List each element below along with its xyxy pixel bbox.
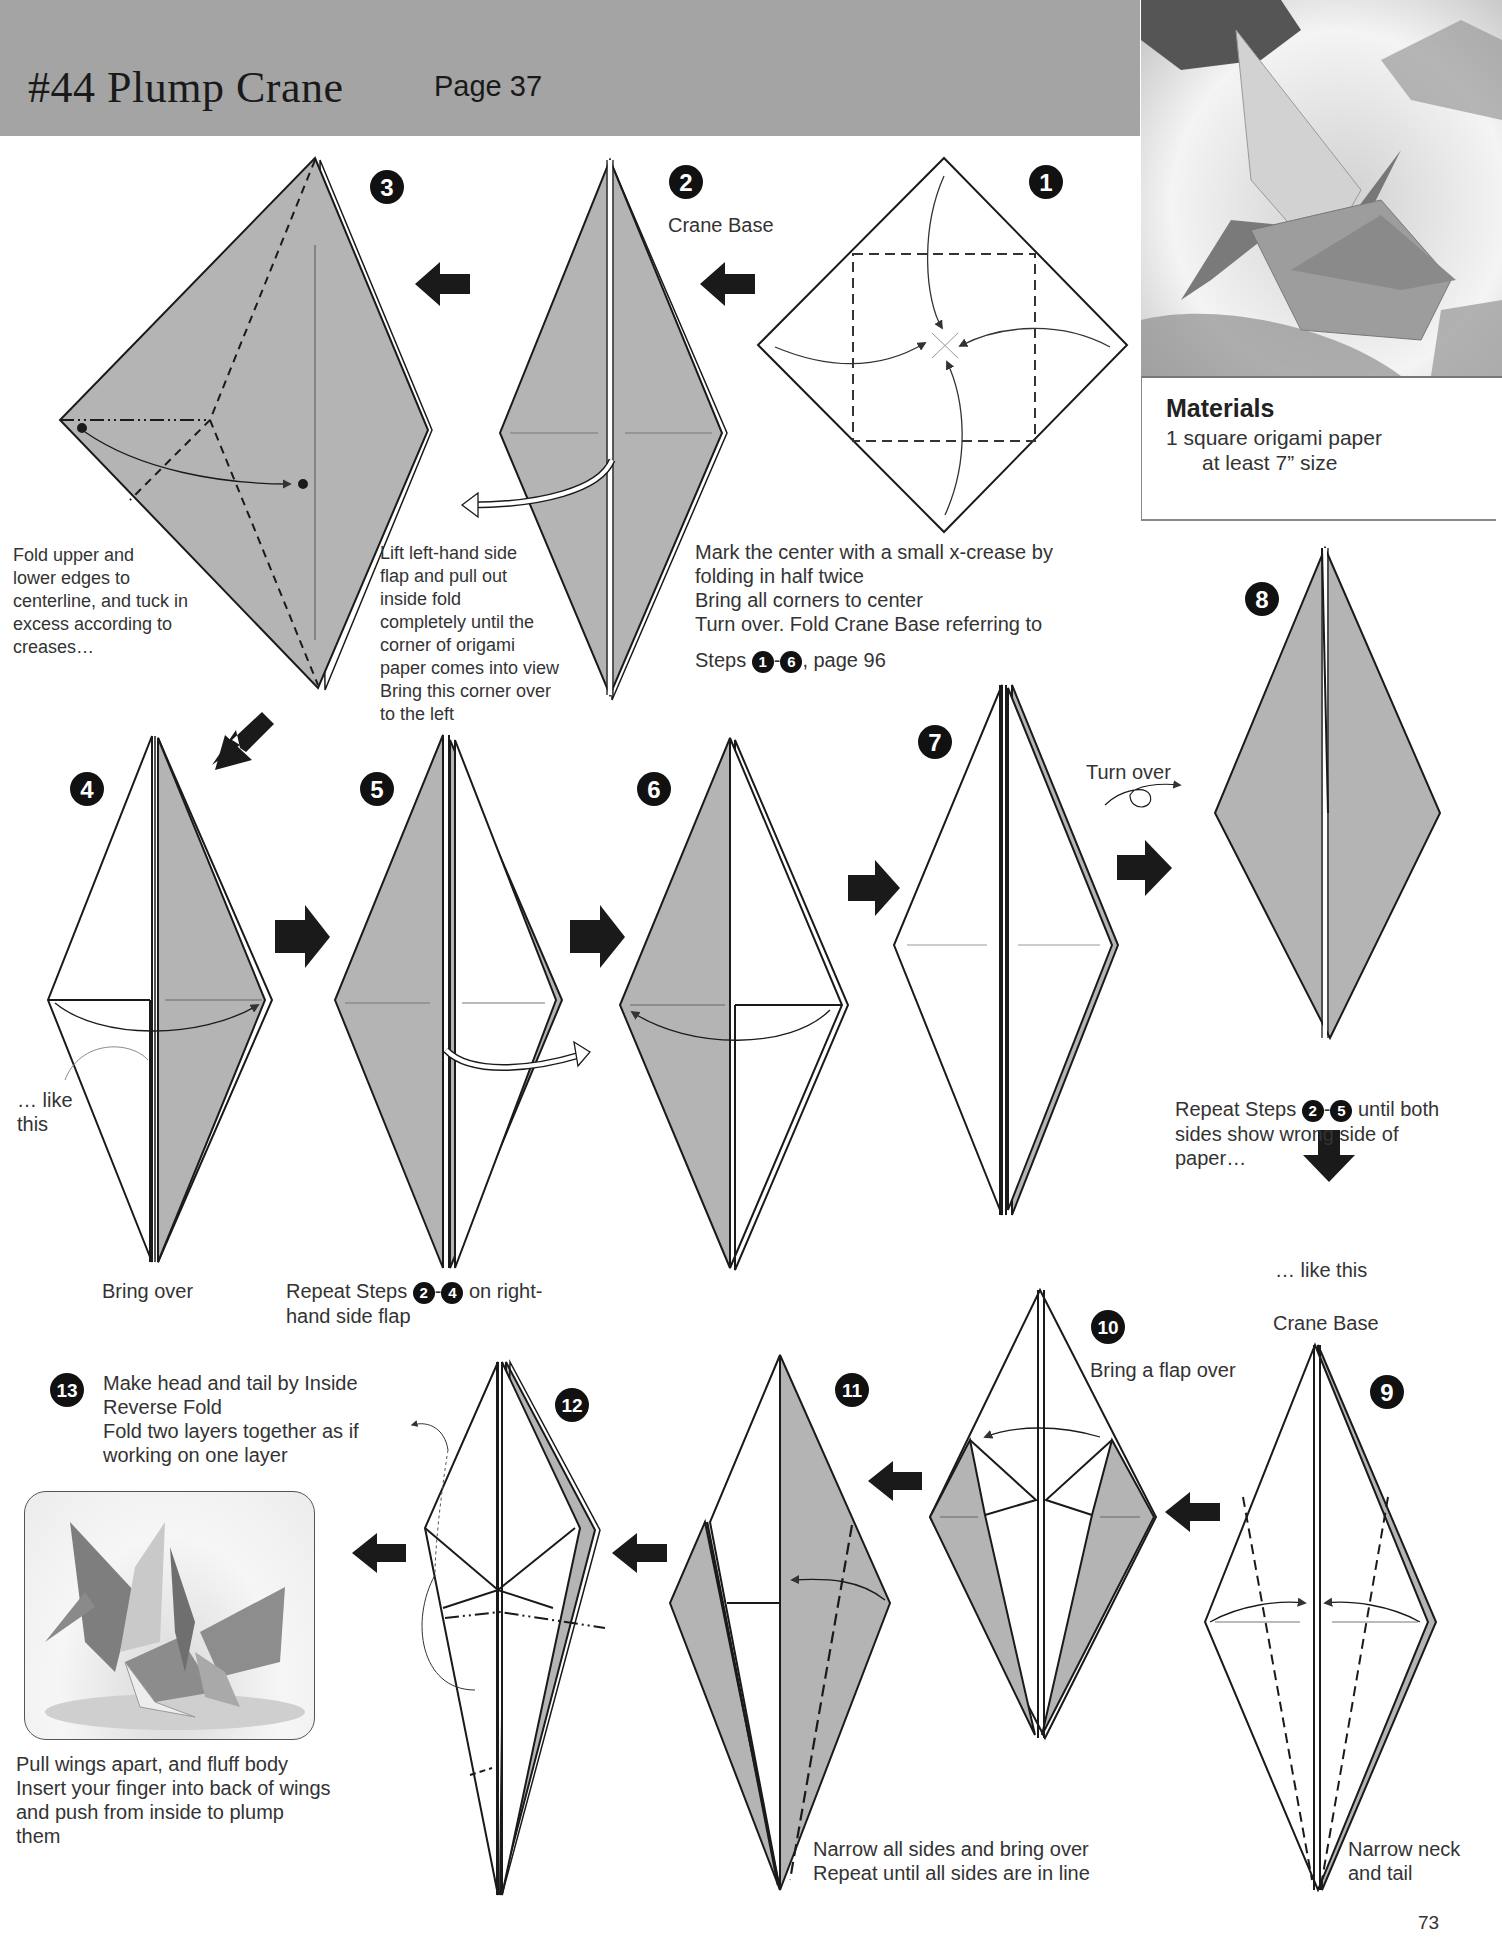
finished-crane-illustration <box>25 1492 314 1739</box>
step-ref-icon: 2 <box>413 1282 435 1304</box>
step9-diagram <box>1205 1345 1436 1890</box>
step-number-12: 12 <box>555 1388 589 1422</box>
step-number-10: 10 <box>1091 1310 1125 1344</box>
step-ref-icon: 4 <box>441 1282 463 1304</box>
step-number-1: 1 <box>1029 165 1063 199</box>
step-ref-icon: 1 <box>752 651 774 673</box>
step12-diagram <box>412 1362 605 1895</box>
step10-instructions: Bring a flap over <box>1090 1358 1236 1382</box>
step2-instructions: Lift left-hand side flap and pull out in… <box>380 542 559 726</box>
step-ref-icon: 2 <box>1302 1100 1324 1122</box>
step-number-9: 9 <box>1370 1375 1404 1409</box>
page-number: 73 <box>1418 1912 1439 1934</box>
turn-over-label: Turn over <box>1086 760 1171 784</box>
step4-note: … like this <box>17 1088 73 1136</box>
step-number-2: 2 <box>669 165 703 199</box>
step5-caption: Repeat Steps 2-4 on right- hand side fla… <box>286 1279 542 1328</box>
crane-base-label: Crane Base <box>1273 1311 1379 1335</box>
step5-prefix: Repeat Steps <box>286 1280 413 1302</box>
step5-diagram <box>335 735 590 1268</box>
step2-label: Crane Base <box>668 213 774 237</box>
dash: - <box>435 1280 442 1302</box>
step1-reference: Steps 1-6, page 96 <box>695 648 886 673</box>
step-ref-icon: 5 <box>1330 1100 1352 1122</box>
step-number-8: 8 <box>1245 582 1279 616</box>
step11-diagram <box>670 1355 890 1890</box>
step3-instructions: Fold upper and lower edges to centerline… <box>13 544 188 659</box>
finished-crane-photo <box>24 1491 315 1740</box>
step1-ref-prefix: Steps <box>695 649 752 671</box>
final-instructions: Pull wings apart, and fluff body Insert … <box>16 1752 331 1848</box>
step4-caption: Bring over <box>102 1279 193 1303</box>
step1-ref-suffix: , page 96 <box>802 649 885 671</box>
step-number-4: 4 <box>70 772 104 806</box>
step8-prefix: Repeat Steps <box>1175 1098 1302 1120</box>
step4-diagram <box>48 736 272 1262</box>
step6-diagram <box>620 738 848 1270</box>
dash: - <box>774 649 781 671</box>
step1-instructions: Mark the center with a small x-crease by… <box>695 540 1053 636</box>
step1-diagram <box>758 158 1127 532</box>
step9-instructions: Narrow neck and tail <box>1348 1837 1460 1885</box>
step-number-7: 7 <box>918 725 952 759</box>
like-this-label: … like this <box>1275 1258 1367 1282</box>
step13-instructions: Make head and tail by Inside Reverse Fol… <box>103 1371 359 1467</box>
arrow-left-3 <box>415 262 470 306</box>
step-ref-icon: 6 <box>780 651 802 673</box>
step-number-11: 11 <box>835 1373 869 1407</box>
dash: - <box>1324 1098 1331 1120</box>
step8-instructions: Repeat Steps 2-5 until both sides show w… <box>1175 1097 1439 1170</box>
step-number-5: 5 <box>360 772 394 806</box>
step-number-6: 6 <box>637 772 671 806</box>
step-number-13: 13 <box>50 1373 84 1407</box>
step-number-3: 3 <box>370 170 404 204</box>
step11-instructions: Narrow all sides and bring over Repeat u… <box>813 1837 1090 1885</box>
step8-diagram <box>1215 548 1440 1038</box>
